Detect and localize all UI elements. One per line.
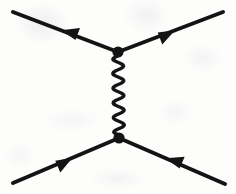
feynman-diagram-figure [0, 0, 236, 194]
figure-background [0, 0, 236, 194]
feynman-diagram-canvas [0, 0, 236, 194]
vertex-bottom-dot [113, 132, 124, 143]
vertex-top-dot [112, 46, 123, 57]
